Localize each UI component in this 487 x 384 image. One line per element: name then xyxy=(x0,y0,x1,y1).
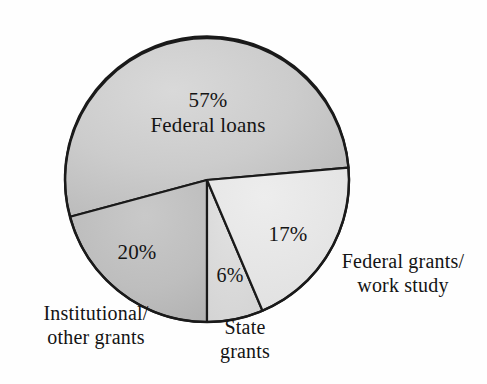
slice-name-institutional-line2: other grants xyxy=(6,326,186,350)
slice-label-federal-loans: 57% Federal loans xyxy=(108,88,308,138)
slice-percent-federal-grants-work-study: 17% xyxy=(256,222,320,247)
slice-name-institutional-line1: Institutional/ xyxy=(6,302,186,326)
slice-name-federal-loans: Federal loans xyxy=(108,113,308,138)
slice-name-federal-grants-work-study: Federal grants/ work study xyxy=(318,250,487,297)
slice-percent-federal-loans: 57% xyxy=(108,88,308,113)
slice-name-institutional-other-grants: Institutional/ other grants xyxy=(6,302,186,349)
slice-name-federal-grants-line2: work study xyxy=(318,274,487,298)
slice-percent-institutional-other-grants: 20% xyxy=(94,240,180,265)
pie-chart-figure: 57% Federal loans 20% Institutional/ oth… xyxy=(0,0,487,384)
slice-name-state-grants: State grants xyxy=(190,316,300,363)
slice-name-state-line2: grants xyxy=(190,340,300,364)
slice-percent-state-grants: 6% xyxy=(203,264,257,288)
slice-name-state-line1: State xyxy=(190,316,300,340)
slice-name-federal-grants-line1: Federal grants/ xyxy=(318,250,487,274)
